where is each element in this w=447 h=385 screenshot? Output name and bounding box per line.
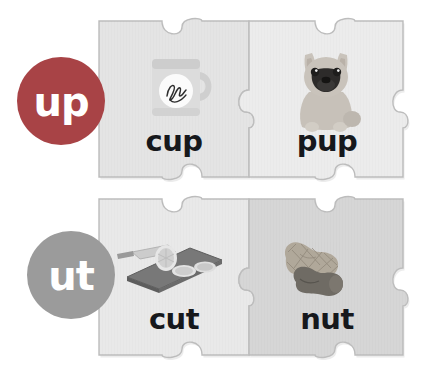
- word-label-pup: pup: [297, 124, 358, 158]
- piece-cut[interactable]: cut: [99, 197, 254, 358]
- puzzle-canvas: cup: [0, 0, 447, 385]
- word-label-cup: cup: [145, 124, 202, 158]
- row-ut: cut nut: [27, 197, 409, 360]
- row-up: cup: [17, 19, 409, 182]
- word-label-cut: cut: [149, 302, 200, 336]
- piece-pup[interactable]: pup: [239, 19, 408, 180]
- badge-ut-label: ut: [48, 253, 94, 299]
- badge-up[interactable]: up: [17, 57, 105, 145]
- piece-nut[interactable]: nut: [239, 197, 408, 358]
- badge-ut[interactable]: ut: [27, 231, 115, 319]
- badge-up-label: up: [33, 79, 88, 125]
- puzzle-board: cup: [0, 0, 447, 385]
- word-label-nut: nut: [300, 302, 354, 336]
- piece-cup[interactable]: cup: [99, 19, 254, 180]
